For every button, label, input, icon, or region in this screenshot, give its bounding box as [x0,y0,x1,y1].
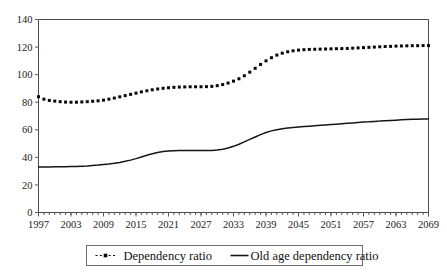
data-point-marker [151,88,154,91]
data-point-marker [405,44,408,47]
data-point-marker [346,47,349,50]
data-point-marker [227,82,230,85]
data-point-marker [216,84,219,87]
data-point-marker [167,86,170,89]
data-point-marker [335,47,338,50]
data-point-marker [140,90,143,93]
data-point-marker [145,89,148,92]
data-point-marker [113,97,116,100]
data-point-marker [221,83,224,86]
x-axis-tick-label: 2009 [93,219,114,230]
data-point-marker [384,45,387,48]
data-point-marker [367,46,370,49]
data-point-marker [42,98,45,101]
x-axis-tick-label: 1997 [28,219,49,230]
data-point-marker [286,50,289,53]
data-point-marker [70,101,73,104]
data-point-marker [53,100,56,103]
data-point-marker [107,98,110,101]
data-point-marker [237,77,240,80]
data-point-marker [156,87,159,90]
data-point-marker [118,95,121,98]
data-point-marker [416,44,419,47]
chart-legend: Dependency ratio Old age dependency rati… [87,246,379,266]
data-point-marker [308,48,311,51]
data-point-marker [297,49,300,52]
legend-label-dependency-ratio: Dependency ratio [124,249,213,263]
x-axis-tick-label: 2069 [418,219,439,230]
data-point-marker [97,99,100,102]
data-point-marker [64,101,67,104]
y-axis-tick-label: 40 [22,152,33,163]
data-point-marker [80,100,83,103]
data-point-marker [129,93,132,96]
data-point-marker [189,85,192,88]
data-point-marker [162,87,165,90]
data-point-marker [248,71,251,74]
data-point-marker [340,47,343,50]
data-point-marker [319,48,322,51]
data-point-marker [362,46,365,49]
legend-label-old-age-dependency-ratio: Old age dependency ratio [251,249,379,263]
x-axis-tick-label: 2027 [191,219,212,230]
data-point-marker [37,95,40,98]
data-point-marker [254,67,257,70]
x-axis-tick-label: 2051 [321,219,342,230]
data-point-marker [351,47,354,50]
data-point-marker [102,99,105,102]
y-axis-tick-label: 80 [22,97,33,108]
data-point-marker [373,46,376,49]
x-axis-tick-label: 2039 [256,219,277,230]
dependency-ratio-line-chart: 020406080100120140 199720032009201520212… [0,0,447,275]
legend-item-old-age-dependency-ratio[interactable]: Old age dependency ratio [231,249,379,263]
y-axis-tick-label: 100 [17,69,33,80]
data-point-marker [172,86,175,89]
data-point-marker [265,59,268,62]
legend-square-marker [104,254,108,258]
x-axis-tick-label: 2015 [126,219,147,230]
data-point-marker [205,85,208,88]
y-axis-tick-label: 20 [22,180,33,191]
data-point-marker [389,45,392,48]
data-point-marker [330,47,333,50]
data-point-marker [427,44,430,47]
data-point-marker [232,80,235,83]
x-axis-tick-label: 2021 [158,219,179,230]
data-point-marker [210,85,213,88]
data-point-marker [135,92,138,95]
data-point-marker [313,48,316,51]
data-point-marker [183,85,186,88]
chart-container: 020406080100120140 199720032009201520212… [0,0,447,275]
data-point-marker [292,49,295,52]
data-point-marker [324,48,327,51]
data-point-marker [178,86,181,89]
chart-background [0,0,447,275]
y-axis-tick-label: 60 [22,124,33,135]
data-point-marker [281,52,284,55]
data-point-marker [59,100,62,103]
data-point-marker [194,85,197,88]
data-point-marker [422,44,425,47]
data-point-marker [411,44,414,47]
data-point-marker [302,48,305,51]
data-point-marker [270,56,273,59]
data-point-marker [124,94,127,97]
x-axis-tick-label: 2033 [223,219,244,230]
data-point-marker [86,100,89,103]
data-point-marker [357,46,360,49]
data-point-marker [395,45,398,48]
x-axis-tick-label: 2003 [61,219,82,230]
y-axis-tick-label: 120 [17,42,33,53]
data-point-marker [259,63,262,66]
data-point-marker [275,54,278,57]
data-point-marker [200,85,203,88]
y-axis-tick-label: 0 [27,207,32,218]
x-axis-tick-label: 2063 [386,219,407,230]
y-axis-tick-label: 140 [17,14,33,25]
data-point-marker [75,101,78,104]
data-point-marker [91,100,94,103]
x-axis-tick-label: 2057 [353,219,374,230]
x-axis-tick-label: 2045 [288,219,309,230]
data-point-marker [400,44,403,47]
data-point-marker [243,74,246,77]
